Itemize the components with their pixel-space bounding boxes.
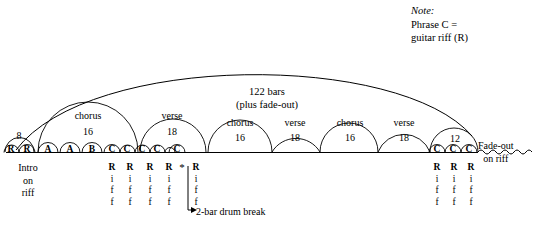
note-title: Note: xyxy=(411,4,468,18)
riff-letter-f2: f xyxy=(166,197,173,209)
phrase-letter: C xyxy=(174,144,181,154)
phrase-letter: C xyxy=(434,144,441,154)
section-label-verse-1: verse xyxy=(161,110,182,121)
riff-letter-f2: f xyxy=(468,197,475,209)
riff-column: R i f f xyxy=(468,162,475,208)
intro-bar-count: 8 xyxy=(17,130,22,141)
section-label-verse-2: verse xyxy=(284,117,305,128)
riff-letter-r: R xyxy=(451,162,458,174)
riff-letter-r: R xyxy=(193,162,200,174)
riff-column: R i f f xyxy=(166,162,173,208)
section-count-verse-1: 18 xyxy=(167,126,177,137)
phrase-letter: C xyxy=(139,144,146,154)
riff-letter-f1: f xyxy=(147,185,154,197)
drum-break-label: 2-bar drum break xyxy=(196,206,265,217)
note-line-1: Phrase C = xyxy=(411,18,468,32)
riff-column: R i f f xyxy=(434,162,441,208)
total-bars-value: 122 bars xyxy=(0,86,534,99)
section-label-chorus-1: chorus xyxy=(75,110,102,121)
total-bars-label: 122 bars (plus fade-out) xyxy=(0,86,534,111)
riff-column: R i f f xyxy=(127,162,134,208)
riff-letter-i: i xyxy=(127,174,134,186)
phrase-letter: C xyxy=(124,144,131,154)
riff-letter-r: R xyxy=(147,162,154,174)
riff-letter-f1: f xyxy=(468,185,475,197)
intro-line-2: on xyxy=(9,175,47,188)
fade-out-line-2: on riff xyxy=(478,153,514,166)
riff-letter-f2: f xyxy=(434,197,441,209)
intro-line-3: riff xyxy=(9,187,47,200)
riff-letter-f2: f xyxy=(451,197,458,209)
section-count-chorus-2: 16 xyxy=(235,132,245,143)
phrase-letter: A xyxy=(67,144,74,154)
riff-letter-i: i xyxy=(147,174,154,186)
riff-letter-f1: f xyxy=(193,185,200,197)
riff-column: R i f f xyxy=(193,162,200,208)
phrase-letter: C xyxy=(466,144,473,154)
phrase-letter: C xyxy=(154,144,161,154)
drum-break-asterisk: * xyxy=(179,161,185,173)
intro-annotation: Intro on riff xyxy=(9,162,47,200)
riff-letter-f2: f xyxy=(109,197,116,209)
section-count-chorus-3: 16 xyxy=(345,132,355,143)
phrase-arc-group xyxy=(4,143,477,153)
section-label-chorus-2: chorus xyxy=(227,117,254,128)
riff-letter-i: i xyxy=(166,174,173,186)
section-count-verse-2: 18 xyxy=(290,132,300,143)
riff-letter-r: R xyxy=(434,162,441,174)
section-count-coda: 12 xyxy=(450,133,460,144)
riff-column: R i f f xyxy=(147,162,154,208)
fade-out-line-1: Fade-out xyxy=(478,140,514,153)
phrase-letter: C xyxy=(450,144,457,154)
note-line-2: guitar riff (R) xyxy=(411,31,468,45)
riff-letter-r: R xyxy=(166,162,173,174)
riff-letter-r: R xyxy=(109,162,116,174)
phrase-letter: C xyxy=(109,144,116,154)
riff-letter-i: i xyxy=(451,174,458,186)
riff-column: R i f f xyxy=(109,162,116,208)
note-block: Note: Phrase C = guitar riff (R) xyxy=(411,4,468,45)
intro-line-1: Intro xyxy=(9,162,47,175)
section-count-verse-3: 18 xyxy=(399,132,409,143)
riff-letter-i: i xyxy=(434,174,441,186)
section-label-verse-3: verse xyxy=(393,117,414,128)
drum-break-pointer xyxy=(188,166,192,210)
section-count-chorus-1: 16 xyxy=(83,126,93,137)
riff-letter-f2: f xyxy=(147,197,154,209)
riff-letter-f1: f xyxy=(166,185,173,197)
phrase-letter: R xyxy=(24,144,31,154)
phrase-letter: B xyxy=(89,144,95,154)
riff-letter-r: R xyxy=(127,162,134,174)
riff-letter-r: R xyxy=(468,162,475,174)
riff-letter-f1: f xyxy=(127,185,134,197)
section-label-chorus-3: chorus xyxy=(337,117,364,128)
riff-letter-i: i xyxy=(468,174,475,186)
riff-column: R i f f xyxy=(451,162,458,208)
riff-letter-f1: f xyxy=(451,185,458,197)
fade-out-annotation: Fade-out on riff xyxy=(478,140,514,165)
riff-letter-f1: f xyxy=(434,185,441,197)
phrase-letter: A xyxy=(45,144,52,154)
riff-letter-i: i xyxy=(193,174,200,186)
riff-letter-i: i xyxy=(109,174,116,186)
form-diagram-page: Note: Phrase C = guitar riff (R) 122 bar… xyxy=(0,0,534,230)
phrase-letter: R xyxy=(8,144,15,154)
riff-letter-f2: f xyxy=(127,197,134,209)
riff-letter-f1: f xyxy=(109,185,116,197)
